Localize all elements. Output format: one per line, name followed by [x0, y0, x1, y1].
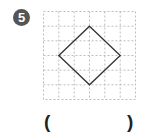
grid-figure [0, 0, 142, 134]
answer-close-paren: ) [127, 112, 133, 132]
answer-open-paren: ( [44, 112, 50, 132]
dashed-grid [44, 12, 136, 100]
